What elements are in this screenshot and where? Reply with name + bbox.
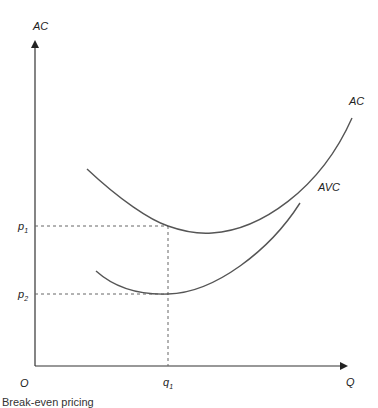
p1-label-subscript: 1 — [24, 227, 28, 234]
q1-label-subscript: 1 — [169, 383, 173, 390]
p2-label: p2 — [17, 288, 28, 302]
p2-label-subscript: 2 — [23, 295, 28, 302]
y-axis-label: AC — [32, 20, 48, 32]
ac-curve — [87, 118, 352, 233]
p2-label-main: p — [17, 288, 24, 300]
figure-caption: Break-even pricing — [2, 396, 94, 408]
q1-label: q1 — [163, 376, 173, 390]
ac-curve-label: AC — [348, 95, 364, 107]
origin-label: O — [20, 377, 29, 389]
avc-curve — [96, 203, 300, 294]
p1-label-main: p — [17, 220, 24, 232]
x-axis-label: Q — [346, 376, 355, 388]
avc-curve-label: AVC — [317, 181, 340, 193]
p1-label: p1 — [17, 220, 28, 234]
